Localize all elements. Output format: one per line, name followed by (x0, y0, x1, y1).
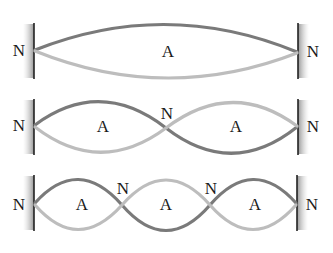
node-label: N (307, 117, 319, 136)
antinode-label: A (160, 195, 173, 214)
node-label: N (13, 195, 25, 214)
antinode-label: A (249, 195, 262, 214)
antinode-label: A (162, 42, 175, 61)
node-label: N (161, 104, 173, 123)
antinode-label: A (97, 117, 110, 136)
antinode-label: A (230, 117, 243, 136)
node-label: N (306, 195, 318, 214)
node-label: N (13, 116, 25, 135)
node-label: N (117, 179, 129, 198)
node-label: N (205, 179, 217, 198)
mode-2-second-harmonic: N A N A N (13, 99, 319, 155)
node-label: N (307, 42, 319, 61)
mode-1-fundamental: N A N (13, 23, 319, 79)
mode-3-third-harmonic: N A N A N A N (13, 175, 318, 231)
node-label: N (13, 41, 25, 60)
antinode-label: A (76, 195, 89, 214)
standing-wave-diagram: N A N N A N A N N A N A N A N (0, 0, 333, 253)
